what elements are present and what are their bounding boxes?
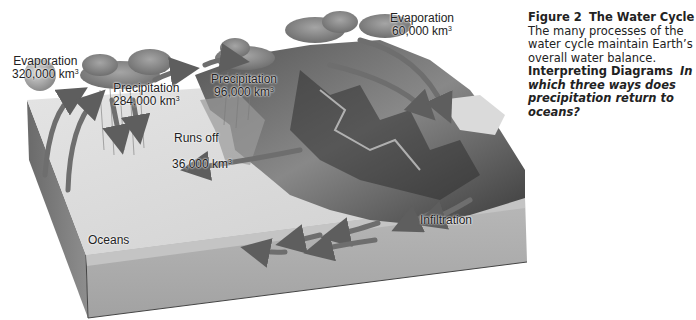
label-value: 284,000 km3 xyxy=(113,95,180,108)
figure-title: The Water Cycle xyxy=(589,10,694,24)
label-value: 320,000 km3 xyxy=(12,68,79,81)
label-oceans: Oceans xyxy=(88,234,129,247)
unit-exponent: 3 xyxy=(228,158,232,165)
label-value: 96,000 km3 xyxy=(211,86,277,99)
value-text: 60,000 km xyxy=(392,24,448,38)
figure-label: Figure 2 xyxy=(528,10,582,24)
cloud-land-2 xyxy=(285,11,358,43)
label-text: Runs off xyxy=(174,132,218,145)
value-text: 36,000 km xyxy=(172,157,228,171)
unit-exponent: 3 xyxy=(75,68,79,75)
unit-exponent: 3 xyxy=(448,25,452,32)
label-runoff: Runs off xyxy=(174,132,218,145)
value-text: 320,000 km xyxy=(12,67,75,81)
label-value: 60,000 km3 xyxy=(390,25,454,38)
label-precipitation-land: Precipitation 96,000 km3 xyxy=(211,73,277,99)
water-cycle-illustration xyxy=(0,0,530,320)
value-text: 96,000 km xyxy=(214,85,270,99)
label-precipitation-ocean: Precipitation 284,000 km3 xyxy=(113,82,180,108)
prompt-label: Interpreting Diagrams xyxy=(528,64,673,78)
water-cycle-diagram: Evaporation 320,000 km3 Precipitation 28… xyxy=(0,0,530,320)
value-text: 284,000 km xyxy=(113,94,176,108)
label-runoff-value: 36,000 km3 xyxy=(172,158,232,171)
groundwater-arrow-4 xyxy=(255,250,285,252)
figure-caption: Figure 2 The Water Cycle The many proces… xyxy=(528,11,696,119)
unit-exponent: 3 xyxy=(176,95,180,102)
label-evaporation-land: Evaporation 60,000 km3 xyxy=(390,12,454,38)
unit-exponent: 3 xyxy=(270,86,274,93)
cloud-land-1 xyxy=(215,38,275,70)
label-infiltration: Infiltration xyxy=(420,214,472,227)
figure-body: The many processes of the water cycle ma… xyxy=(528,24,693,65)
label-evaporation-ocean: Evaporation 320,000 km3 xyxy=(12,55,79,81)
